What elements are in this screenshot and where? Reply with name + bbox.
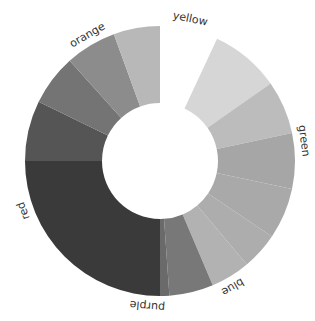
label-yellow: yellow <box>172 9 209 29</box>
donut-chart: yellowgreenbluepurpleredorange <box>0 0 315 321</box>
label-purple: purple <box>129 298 166 314</box>
donut-segments <box>25 26 295 296</box>
label-green: green <box>295 124 312 157</box>
segment-red <box>25 161 160 296</box>
label-red: red <box>14 200 32 221</box>
